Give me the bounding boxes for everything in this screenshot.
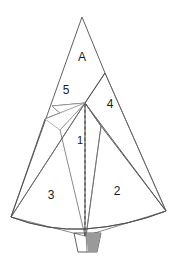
label-5: 5 bbox=[63, 83, 70, 97]
geometric-figure: A 5 4 1 3 2 bbox=[0, 0, 176, 259]
figure-canvas: A 5 4 1 3 2 bbox=[0, 0, 176, 259]
label-4: 4 bbox=[107, 97, 114, 111]
label-2: 2 bbox=[114, 184, 121, 198]
label-1: 1 bbox=[77, 134, 83, 146]
label-a: A bbox=[78, 50, 86, 64]
label-3: 3 bbox=[48, 188, 55, 202]
